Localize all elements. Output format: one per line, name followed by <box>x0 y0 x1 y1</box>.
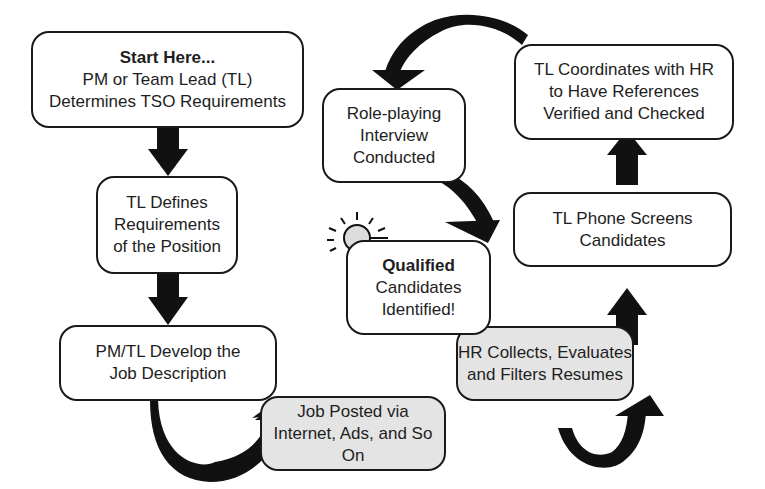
node-posted: Job Posted via Internet, Ads, and So On <box>260 396 446 471</box>
node-interview-line-1: Role-playing <box>347 103 442 125</box>
node-develop-line-2: Job Description <box>109 363 226 385</box>
node-references-line-2: to Have References <box>549 81 699 103</box>
node-start: Start Here... PM or Team Lead (TL) Deter… <box>31 31 304 128</box>
node-develop: PM/TL Develop the Job Description <box>59 325 277 401</box>
node-qualified-line-1: Candidates <box>375 277 461 299</box>
node-start-line-2: Determines TSO Requirements <box>49 91 286 113</box>
node-phone: TL Phone Screens Candidates <box>513 192 732 267</box>
node-references: TL Coordinates with HR to Have Reference… <box>514 44 734 140</box>
arrow-start-to-define <box>148 127 188 176</box>
node-qualified-line-2: Identified! <box>382 299 456 321</box>
node-qualified-title: Qualified <box>382 255 455 277</box>
node-define-line-1: TL Defines <box>126 192 208 214</box>
node-references-line-1: TL Coordinates with HR <box>534 59 714 81</box>
node-develop-line-1: PM/TL Develop the <box>96 341 241 363</box>
node-hr-collect: HR Collects, Evaluates and Filters Resum… <box>456 326 634 401</box>
node-interview: Role-playing Interview Conducted <box>322 88 466 183</box>
node-define-line-3: of the Position <box>113 236 221 258</box>
node-interview-line-3: Conducted <box>353 147 435 169</box>
node-interview-line-2: Interview <box>360 125 428 147</box>
arrow-references-to-interview <box>372 15 528 90</box>
node-hr-collect-line-1: HR Collects, Evaluates <box>458 342 632 364</box>
node-hr-collect-line-2: and Filters Resumes <box>467 364 623 386</box>
node-posted-line-1: Job Posted via <box>297 401 409 423</box>
node-qualified: Qualified Candidates Identified! <box>346 240 491 335</box>
node-start-title: Start Here... <box>120 47 215 69</box>
node-phone-line-1: TL Phone Screens <box>552 208 692 230</box>
node-start-line-1: PM or Team Lead (TL) <box>83 69 253 91</box>
arrow-define-to-develop <box>148 273 188 325</box>
node-phone-line-2: Candidates <box>579 230 665 252</box>
node-define-line-2: Requirements <box>114 214 220 236</box>
node-references-line-3: Verified and Checked <box>543 103 705 125</box>
arrow-posted-to-hr <box>558 395 664 468</box>
node-define: TL Defines Requirements of the Position <box>96 176 238 274</box>
node-posted-line-2: Internet, Ads, and So On <box>262 423 444 467</box>
